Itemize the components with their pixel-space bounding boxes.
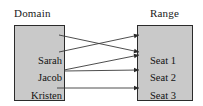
domain-column-title: Domain [14,8,51,19]
range-column-title: Range [150,8,179,19]
domain-member-jacob: Jacob [38,73,62,84]
domain-set-box: Sarah Jacob Kristen Erin [14,25,65,101]
domain-member-sarah: Sarah [38,56,62,67]
mapping-diagram: Domain Range Sarah Jacob Kristen Erin Se… [0,0,203,106]
range-member-seat-2: Seat 2 [150,73,176,84]
range-set-box: Seat 1 Seat 2 Seat 3 Seat 4 [137,25,193,101]
range-member-seat-3: Seat 3 [150,91,176,102]
domain-member-kristen: Kristen [31,91,62,102]
range-member-seat-1: Seat 1 [150,56,176,67]
mapping-edge [64,68,139,73]
mapping-edge [59,35,139,53]
mapping-edge [64,54,139,70]
mapping-edge [57,86,139,91]
mapping-edge [59,34,139,52]
